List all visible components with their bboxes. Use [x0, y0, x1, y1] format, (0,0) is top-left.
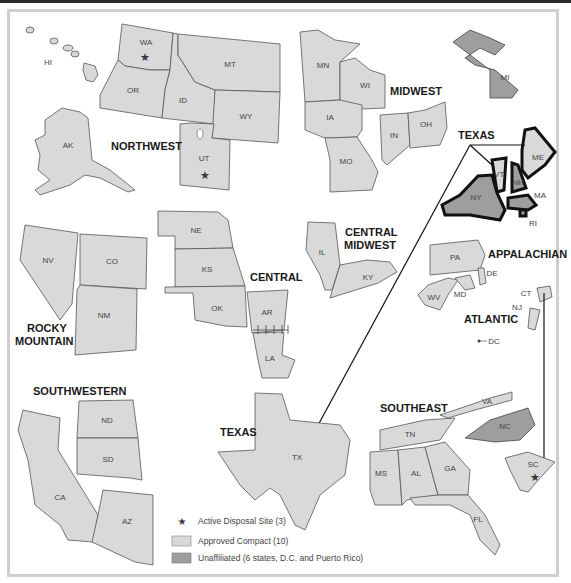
svg-text:MA: MA [534, 191, 547, 200]
svg-text:NE: NE [190, 226, 201, 235]
region-label-northwest: NORTHWEST [111, 140, 182, 152]
region-central: NE KS OK AR LA CENTRAL [158, 211, 303, 378]
svg-text:UT: UT [199, 154, 210, 163]
legend-approved-swatch [172, 536, 191, 546]
svg-text:NJ: NJ [512, 303, 522, 312]
state-tx[interactable] [218, 393, 350, 530]
svg-text:TN: TN [405, 430, 416, 439]
svg-text:SC: SC [527, 460, 538, 469]
svg-text:GA: GA [444, 464, 456, 473]
svg-text:OK: OK [211, 304, 223, 313]
svg-text:★: ★ [178, 516, 187, 527]
svg-text:★: ★ [140, 51, 150, 64]
svg-text:FL: FL [473, 515, 483, 524]
legend-approved: Approved Compact (10) [198, 536, 288, 546]
svg-text:CA: CA [54, 493, 66, 502]
svg-text:NC: NC [499, 422, 511, 431]
svg-text:AR: AR [261, 308, 272, 317]
svg-text:AK: AK [63, 141, 74, 150]
region-label-central: CENTRAL [250, 271, 303, 283]
legend-unaffiliated-swatch [172, 553, 191, 563]
region-label-appalachian: APPALACHIAN [488, 248, 567, 260]
svg-text:AZ: AZ [122, 517, 132, 526]
region-central-midwest: IL KY CENTRAL MIDWEST [306, 222, 398, 298]
svg-text:IA: IA [326, 113, 334, 122]
svg-text:MT: MT [224, 60, 236, 69]
svg-text:SD: SD [102, 455, 113, 464]
region-rocky-mountain: NV CO NM ROCKY MOUNTAIN [15, 225, 147, 355]
svg-text:IN: IN [390, 131, 398, 140]
state-de[interactable] [478, 268, 486, 285]
legend-unaffiliated: Unaffiliated (6 states, D.C. and Puerto … [198, 553, 363, 563]
svg-text:VT: VT [494, 170, 504, 179]
state-ok[interactable] [165, 286, 247, 327]
svg-text:★: ★ [530, 471, 540, 484]
svg-text:IL: IL [319, 248, 326, 257]
region-northwest: HI WA OR ID MT WY UT AK NORTHWEST ★ ★ [26, 24, 280, 195]
state-hi[interactable] [26, 27, 98, 82]
state-ri[interactable] [520, 210, 526, 216]
region-label-central-midwest-1: CENTRAL [345, 226, 398, 238]
label-hi: HI [44, 58, 52, 67]
svg-text:CT: CT [521, 289, 532, 298]
svg-text:MD: MD [454, 290, 467, 299]
state-mi[interactable] [453, 30, 518, 98]
svg-text:TX: TX [292, 453, 303, 462]
svg-text:MO: MO [340, 157, 353, 166]
legend-active-site: Active Disposal Site (3) [198, 516, 286, 526]
svg-text:WV: WV [428, 293, 442, 302]
svg-text:OH: OH [420, 120, 432, 129]
svg-text:★: ★ [200, 169, 210, 182]
region-label-southeast: SOUTHEAST [380, 402, 448, 414]
svg-text:MN: MN [317, 61, 330, 70]
state-az[interactable] [92, 490, 153, 565]
state-nj[interactable] [528, 308, 540, 330]
svg-text:DE: DE [486, 269, 497, 278]
svg-text:NH: NH [512, 178, 524, 187]
svg-text:KS: KS [202, 265, 213, 274]
svg-text:VA: VA [482, 397, 493, 406]
svg-text:AL: AL [411, 469, 421, 478]
svg-text:DC: DC [488, 337, 500, 346]
svg-text:ND: ND [101, 416, 113, 425]
active-site-star-icon: ★ [200, 169, 210, 182]
svg-text:MI: MI [501, 73, 510, 82]
state-nv[interactable] [20, 225, 78, 320]
svg-text:RI: RI [529, 219, 537, 228]
state-ma[interactable] [508, 195, 536, 210]
region-label-southwestern: SOUTHWESTERN [33, 385, 127, 397]
svg-text:ME: ME [532, 153, 544, 162]
region-label-central-midwest-2: MIDWEST [344, 239, 396, 251]
active-site-star-icon: ★ [140, 51, 150, 64]
svg-text:NV: NV [42, 256, 54, 265]
svg-text:WY: WY [240, 112, 254, 121]
region-label-rocky-1: ROCKY [27, 322, 67, 334]
state-md[interactable] [455, 275, 475, 290]
svg-text:LA: LA [265, 354, 275, 363]
region-texas: TX TEXAS [218, 393, 350, 530]
svg-text:WA: WA [140, 38, 153, 47]
svg-text:OR: OR [127, 86, 139, 95]
state-va[interactable] [440, 392, 512, 418]
svg-text:NM: NM [98, 311, 111, 320]
legend: ★ Active Disposal Site (3) Approved Comp… [172, 516, 363, 563]
region-label-texas: TEXAS [220, 426, 257, 438]
region-label-texas-top: TEXAS [458, 129, 495, 141]
region-midwest: MN WI IA MO IN OH MI MIDWEST [300, 30, 518, 192]
region-label-atlantic: ATLANTIC [464, 313, 518, 325]
legend-star-icon: ★ [178, 516, 187, 527]
svg-text:KY: KY [363, 273, 374, 282]
region-southeast: VA NC TN MS AL GA FL SC ★ SOUTHEAST [370, 392, 555, 555]
state-nm[interactable] [75, 285, 137, 355]
svg-text:ID: ID [179, 96, 187, 105]
svg-text:WI: WI [360, 81, 370, 90]
active-site-star-icon: ★ [530, 471, 540, 484]
state-fl[interactable] [410, 495, 500, 555]
svg-text:PA: PA [450, 253, 461, 262]
region-label-rocky-2: MOUNTAIN [15, 335, 74, 347]
svg-text:MS: MS [375, 469, 387, 478]
svg-text:CO: CO [106, 257, 118, 266]
compact-map: HI WA OR ID MT WY UT AK NORTHWEST ★ ★ MN… [0, 0, 571, 583]
svg-text:NY: NY [470, 193, 482, 202]
region-label-midwest: MIDWEST [390, 85, 442, 97]
